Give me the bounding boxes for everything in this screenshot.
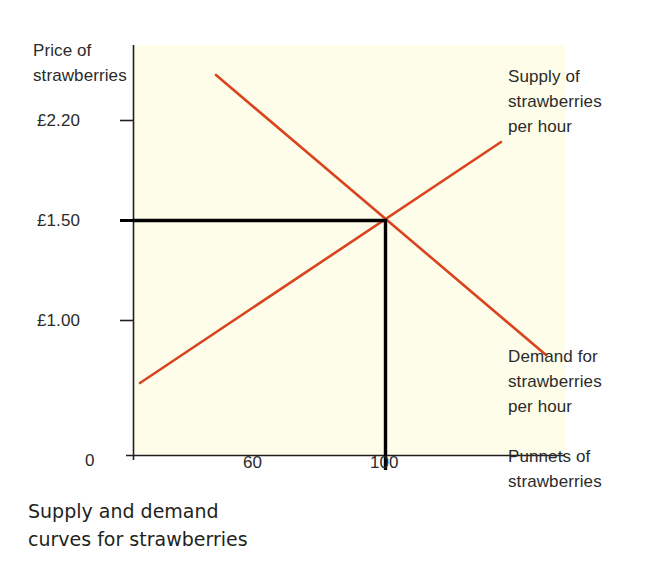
demand-label-line2: strawberries (508, 372, 602, 391)
y-axis-title: Price ofstrawberries (33, 38, 127, 88)
caption-line1: Supply and demand (28, 500, 219, 522)
figure-caption: Supply and demandcurves for strawberries (28, 497, 248, 553)
supply-curve-label: Supply ofstrawberriesper hour (508, 64, 602, 139)
demand-label-line1: Demand for (508, 347, 598, 366)
demand-curve-label: Demand forstrawberriesper hour (508, 344, 602, 419)
x-axis-title: Punnets ofstrawberries (508, 444, 602, 494)
x-axis-title-line2: strawberries (508, 472, 602, 491)
supply-label-line2: strawberries (508, 92, 602, 111)
x-tick-label-0: 0 (85, 448, 95, 473)
y-axis-title-line1: Price of (33, 41, 91, 60)
plot-background (133, 45, 565, 455)
supply-label-line3: per hour (508, 117, 572, 136)
y-axis-title-line2: strawberries (33, 66, 127, 85)
figure-supply-demand-strawberries: Price ofstrawberries £2.20 £1.50 £1.00 0… (0, 0, 658, 563)
demand-label-line3: per hour (508, 397, 572, 416)
x-tick-label-100: 100 (370, 450, 399, 475)
y-tick-label-150: £1.50 (37, 208, 80, 233)
x-tick-label-60: 60 (243, 450, 262, 475)
caption-line2: curves for strawberries (28, 528, 248, 550)
y-tick-label-220: £2.20 (37, 108, 80, 133)
y-tick-label-100: £1.00 (37, 308, 80, 333)
x-axis-title-line1: Punnets of (508, 447, 590, 466)
supply-label-line1: Supply of (508, 67, 580, 86)
